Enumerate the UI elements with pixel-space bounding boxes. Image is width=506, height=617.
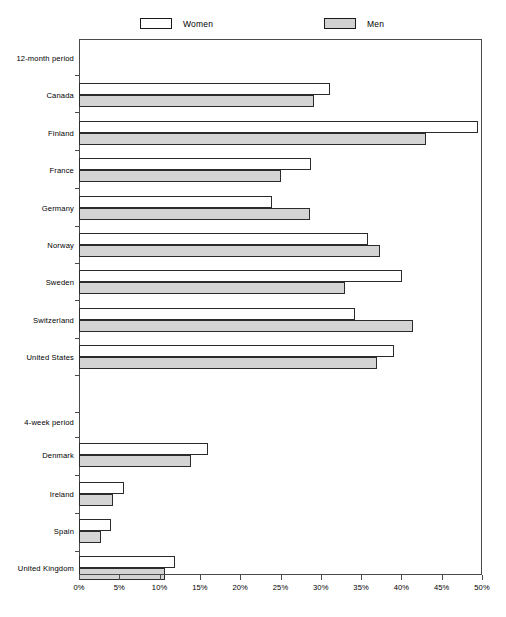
bar-men	[79, 133, 426, 145]
chart-figure: Women Men 12-month periodCanadaFinlandFr…	[0, 0, 506, 617]
bar-women	[79, 345, 394, 357]
x-axis-tick-label: 5%	[104, 583, 134, 592]
y-axis-tick	[75, 150, 80, 151]
bar-men	[79, 455, 191, 467]
x-axis-tick	[79, 575, 80, 580]
bar-women	[79, 233, 368, 245]
x-axis-tick	[482, 575, 483, 580]
x-axis-tick-label: 15%	[185, 583, 215, 592]
x-axis-tick-label: 10%	[145, 583, 175, 592]
bar-men	[79, 357, 377, 369]
x-axis-tick-label: 20%	[225, 583, 255, 592]
bar-men	[79, 494, 113, 506]
bar-men	[79, 245, 380, 257]
y-axis-tick	[75, 513, 80, 514]
bar-women	[79, 83, 330, 95]
y-axis-tick	[75, 226, 80, 227]
y-axis-tick	[75, 300, 80, 301]
y-axis-tick	[75, 475, 80, 476]
bar-men	[79, 320, 413, 332]
x-axis-tick	[240, 575, 241, 580]
x-axis-tick-label: 35%	[346, 583, 376, 592]
y-axis-tick	[75, 75, 80, 76]
x-axis-tick	[281, 575, 282, 580]
y-axis-tick	[75, 437, 80, 438]
x-axis-tick-label: 30%	[306, 583, 336, 592]
bars-layer	[0, 0, 506, 617]
x-axis-tick	[442, 575, 443, 580]
bar-men	[79, 531, 101, 543]
bar-women	[79, 519, 111, 531]
x-axis-tick-label: 40%	[386, 583, 416, 592]
bar-men	[79, 208, 310, 220]
y-axis-tick	[75, 375, 80, 376]
y-axis-tick	[75, 551, 80, 552]
y-axis-tick	[75, 263, 80, 264]
bar-men	[79, 95, 314, 107]
x-axis-tick	[160, 575, 161, 580]
y-axis-tick	[75, 338, 80, 339]
bar-women	[79, 556, 175, 568]
x-axis-tick	[401, 575, 402, 580]
x-axis-tick	[321, 575, 322, 580]
bar-women	[79, 196, 272, 208]
bar-women	[79, 158, 311, 170]
x-axis-tick-label: 0%	[64, 583, 94, 592]
bar-men	[79, 170, 281, 182]
bar-women	[79, 443, 208, 455]
bar-men	[79, 282, 345, 294]
bar-women	[79, 308, 355, 320]
x-axis-tick-label: 45%	[427, 583, 457, 592]
bar-women	[79, 121, 478, 133]
x-axis-tick	[119, 575, 120, 580]
x-axis-tick-label: 25%	[266, 583, 296, 592]
bar-women	[79, 270, 402, 282]
x-axis-tick-label: 50%	[467, 583, 497, 592]
x-axis-tick	[361, 575, 362, 580]
bar-women	[79, 482, 124, 494]
y-axis-tick	[75, 412, 80, 413]
x-axis-tick	[200, 575, 201, 580]
y-axis-tick	[75, 188, 80, 189]
y-axis-tick	[75, 112, 80, 113]
